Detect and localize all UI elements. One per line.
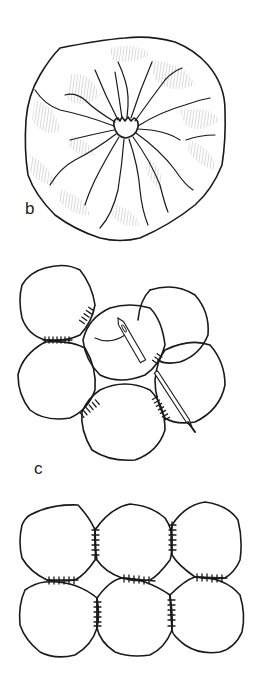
panel-b-gathered-puff: b (0, 0, 263, 250)
grid-seams (47, 522, 227, 630)
panel-label-b: b (25, 200, 34, 217)
panel-joined-grid (0, 480, 263, 684)
puff-grid-4 (20, 582, 99, 657)
needle-bottom (154, 371, 193, 429)
needle-top (115, 317, 145, 363)
thread (95, 335, 125, 341)
joined-grid-illustration (0, 480, 263, 684)
fold-shading (30, 46, 220, 225)
puff-grid-3 (171, 502, 241, 579)
stitching-puffs-illustration (0, 250, 263, 485)
whip-stitches (43, 307, 170, 420)
puff-top-right (150, 287, 208, 363)
puff-center (83, 305, 165, 380)
panel-c-stitching-puffs: c (0, 250, 263, 485)
puff-bottom-center (82, 384, 165, 460)
puff-top-left (20, 265, 95, 340)
puff-grid-6 (170, 577, 244, 653)
puff-grid-1 (20, 505, 96, 581)
puff-grid-2 (95, 504, 172, 581)
thread-tail (188, 422, 195, 432)
gathered-puff-illustration (0, 0, 263, 250)
puff-grid-5 (97, 578, 172, 656)
panel-label-c: c (34, 460, 43, 477)
grid-stitch-ticks (49, 525, 222, 626)
